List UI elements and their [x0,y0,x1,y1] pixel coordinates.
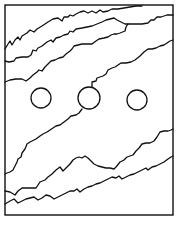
line-drawing-figure [0,0,178,228]
figure-background [0,0,178,228]
